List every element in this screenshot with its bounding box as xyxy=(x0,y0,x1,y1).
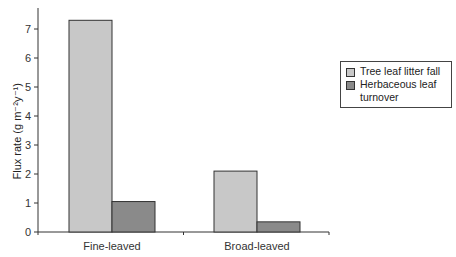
legend: Tree leaf litter fall Herbaceous leaf tu… xyxy=(340,61,452,108)
y-tick-label: 5 xyxy=(25,81,31,93)
bar xyxy=(112,202,155,232)
legend-label-line2: turnover xyxy=(360,91,399,103)
bar-chart: 01234567Fine-leavedBroad-leaved xyxy=(0,0,456,257)
legend-swatch-dark xyxy=(346,81,355,90)
bar xyxy=(214,171,257,232)
y-tick-label: 3 xyxy=(25,139,31,151)
y-tick-label: 0 xyxy=(25,226,31,238)
bar xyxy=(69,20,112,232)
y-tick-label: 2 xyxy=(25,168,31,180)
y-tick-label: 6 xyxy=(25,52,31,64)
legend-label: Herbaceous leaf turnover xyxy=(360,78,436,104)
x-tick-label: Fine-leaved xyxy=(83,240,140,252)
x-tick-label: Broad-leaved xyxy=(224,240,289,252)
y-tick-label: 1 xyxy=(25,197,31,209)
legend-label: Tree leaf litter fall xyxy=(360,65,440,78)
y-axis-label: Flux rate (g m⁻²y⁻¹) xyxy=(11,90,24,180)
bar xyxy=(257,222,300,232)
legend-item-tree-litter: Tree leaf litter fall xyxy=(346,65,440,78)
legend-label-line1: Herbaceous leaf xyxy=(360,78,436,90)
y-tick-label: 7 xyxy=(25,23,31,35)
legend-item-herbaceous: Herbaceous leaf turnover xyxy=(346,78,436,104)
y-tick-label: 4 xyxy=(25,110,31,122)
legend-swatch-light xyxy=(346,68,355,77)
